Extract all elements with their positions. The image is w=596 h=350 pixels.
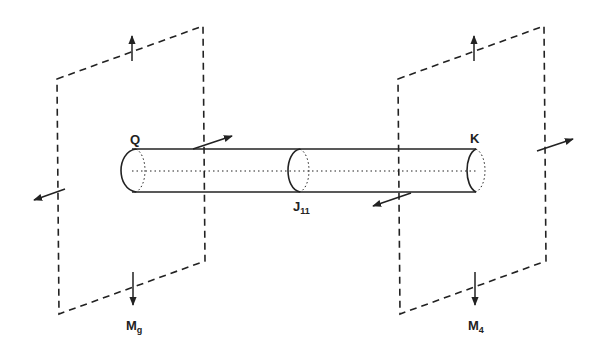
cylinder-left-tangent-arrow-icon	[193, 136, 232, 149]
left-plane-label: Mg	[126, 318, 142, 335]
left-end-label: Q	[130, 132, 140, 147]
right-plane	[398, 26, 546, 314]
junction-label: J11	[293, 199, 310, 216]
diagram-canvas: Q K J11 Mg M4	[0, 0, 596, 350]
cylinder	[121, 149, 485, 192]
left-plane-normal-arrow-icon	[34, 189, 65, 200]
left-plane	[57, 26, 205, 314]
right-plane-label: M4	[468, 318, 484, 335]
right-plane-normal-arrow-icon	[537, 139, 573, 151]
right-end-label: K	[470, 131, 480, 146]
cylinder-right-tangent-arrow-icon	[373, 193, 411, 206]
